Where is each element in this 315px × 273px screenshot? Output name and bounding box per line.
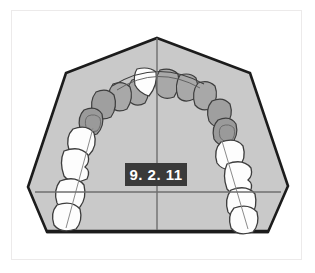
dental-cast-figure: 9. 2. 11 (0, 0, 315, 273)
date-label-text: 9. 2. 11 (129, 167, 182, 182)
tooth-upper-left-distal-molar (230, 206, 258, 234)
tooth-upper-right-second-molar (62, 149, 89, 182)
dental-cast-drawing (0, 0, 315, 273)
date-label: 9. 2. 11 (125, 163, 187, 186)
